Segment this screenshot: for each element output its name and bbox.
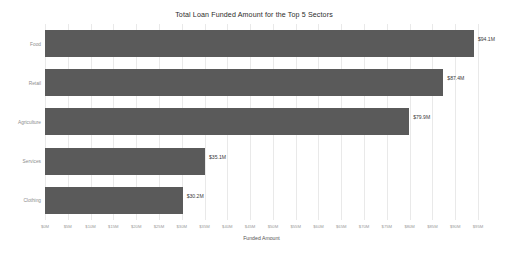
x-tick-label: $75M [382,224,392,229]
y-tick-label-services: Services [23,159,41,164]
x-tick-label: $0M [41,224,49,229]
x-tick-label: $10M [85,224,95,229]
bar-agriculture[interactable] [45,108,409,135]
bar-value-label: $35.1M [209,154,226,160]
x-tick-label: $80M [404,224,414,229]
chart-title: Total Loan Funded Amount for the Top 5 S… [0,11,508,19]
x-tick-label: $15M [108,224,118,229]
x-tick-label: $30M [176,224,186,229]
x-tick-label: $50M [268,224,278,229]
chart-figure: Total Loan Funded Amount for the Top 5 S… [0,0,508,255]
x-tick-label: $55M [290,224,300,229]
bar-row: $87.4M [45,63,478,102]
x-tick-label: $5M [64,224,72,229]
bar-row: $35.1M [45,142,478,181]
x-tick-label: $95M [473,224,483,229]
x-tick-label: $90M [450,224,460,229]
bar-value-label: $30.2M [187,193,204,199]
x-tick-label: $45M [245,224,255,229]
y-tick-label-food: Food [30,41,41,46]
x-tick-label: $65M [336,224,346,229]
bar-food[interactable] [45,30,474,57]
y-tick-label-retail: Retail [29,80,41,85]
plot-area: $94.1M$87.4M$79.9M$35.1M$30.2M [45,24,478,220]
y-tick-label-agriculture: Agriculture [18,120,41,125]
x-tick-label: $85M [427,224,437,229]
x-tick-label: $20M [131,224,141,229]
bar-services[interactable] [45,148,205,175]
x-axis: $0M$5M$10M$15M$20M$25M$30M$35M$40M$45M$5… [45,220,478,234]
x-axis-title: Funded Amount [45,235,478,241]
x-tick-label: $70M [359,224,369,229]
y-tick-label-clothing: Clothing [23,198,41,203]
y-axis: FoodRetailAgricultureServicesClothing [0,24,41,220]
x-tick-label: $40M [222,224,232,229]
bar-row: $30.2M [45,181,478,220]
bar-value-label: $94.1M [478,36,495,42]
x-tick-label: $60M [313,224,323,229]
bar-row: $79.9M [45,102,478,141]
x-tick-label: $25M [154,224,164,229]
bar-value-label: $87.4M [447,75,464,81]
x-tick-label: $35M [199,224,209,229]
bar-row: $94.1M [45,24,478,63]
bar-retail[interactable] [45,69,443,96]
gridline [478,24,479,220]
bar-clothing[interactable] [45,187,183,214]
bar-value-label: $79.9M [413,114,430,120]
